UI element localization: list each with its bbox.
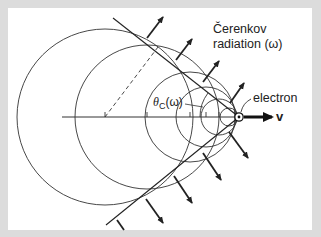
radiation-arrow bbox=[203, 153, 221, 180]
radiation-arrow bbox=[203, 61, 219, 82]
electron-leader bbox=[241, 99, 251, 112]
title-line-1: Čerenkov bbox=[213, 22, 267, 36]
radiation-arrow bbox=[230, 83, 244, 103]
velocity-label: v bbox=[276, 110, 283, 124]
radiation-arrow bbox=[174, 176, 192, 203]
cherenkov-angle-label: θC(ω) bbox=[153, 95, 183, 113]
angle-argument: (ω) bbox=[165, 95, 182, 109]
cone-line-lower bbox=[106, 117, 239, 225]
electron-dot bbox=[238, 116, 241, 119]
title-line-2: radiation (ω) bbox=[213, 37, 283, 51]
radiation-arrow bbox=[146, 199, 163, 223]
electron-label: electron bbox=[253, 91, 297, 105]
radiation-arrow bbox=[147, 17, 163, 38]
dashed-radius bbox=[105, 47, 158, 117]
radiation-arrow bbox=[229, 132, 248, 158]
angle-leader bbox=[185, 104, 203, 107]
radiation-arrow bbox=[176, 39, 192, 60]
radiation-arrow bbox=[117, 220, 124, 230]
cerenkov-diagram bbox=[0, 0, 321, 237]
